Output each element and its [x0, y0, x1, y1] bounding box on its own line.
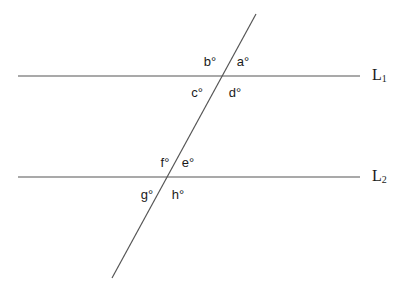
line-label-l2-subscript: 2 — [382, 174, 387, 185]
line-label-l1-letter: L — [372, 66, 382, 83]
geometry-figure — [0, 0, 412, 294]
angle-label-f: f° — [161, 155, 170, 170]
angle-label-e: e° — [182, 155, 194, 170]
line-label-l2: L2 — [372, 167, 387, 185]
angle-label-h: h° — [172, 187, 184, 202]
angle-label-b: b° — [204, 54, 216, 69]
line-label-l1-subscript: 1 — [382, 73, 387, 84]
transversal-line — [112, 14, 256, 278]
diagram-canvas: a°b°c°d°e°f°g°h° L1 L2 — [0, 0, 412, 294]
angle-label-c: c° — [191, 85, 203, 100]
line-label-l2-letter: L — [372, 167, 382, 184]
angle-label-a: a° — [237, 54, 249, 69]
line-label-l1: L1 — [372, 66, 387, 84]
angle-label-d: d° — [229, 85, 241, 100]
angle-label-g: g° — [141, 187, 153, 202]
